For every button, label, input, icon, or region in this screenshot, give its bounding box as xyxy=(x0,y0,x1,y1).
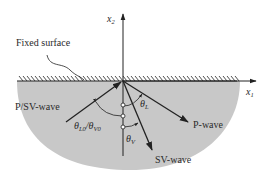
sv-wave-label: SV-wave xyxy=(155,154,192,165)
x1-axis-label: x1 xyxy=(245,86,254,98)
fixed-surface-label: Fixed surface xyxy=(16,37,71,48)
fixed-surface-hatching xyxy=(17,76,239,81)
x2-axis-label: x2 xyxy=(106,13,115,25)
p-wave-label: P-wave xyxy=(193,119,224,130)
arc-origin-marker-sv xyxy=(121,125,125,129)
arc-origin-marker-p xyxy=(121,103,125,107)
fixed-surface-leader xyxy=(47,55,84,80)
wave-reflection-diagram: Fixed surface P/SV-wave P-wave SV-wave x… xyxy=(0,0,269,176)
arc-origin-marker-incident xyxy=(121,114,125,118)
incident-wave-label: P/SV-wave xyxy=(15,101,60,112)
